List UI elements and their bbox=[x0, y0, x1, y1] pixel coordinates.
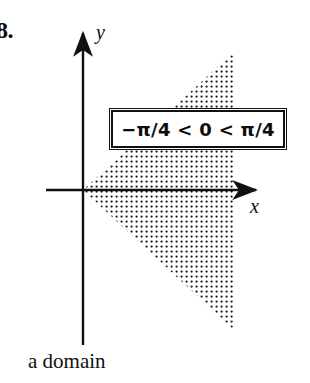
domain-figure bbox=[0, 0, 310, 383]
y-axis-label: y bbox=[96, 22, 105, 42]
x-axis-label: x bbox=[250, 196, 259, 216]
figure-caption: a domain bbox=[28, 351, 106, 372]
inequality-annotation-text: −π/4 < 0 < π/4 bbox=[121, 119, 275, 140]
problem-number: 8. bbox=[0, 18, 13, 42]
inequality-annotation-box: −π/4 < 0 < π/4 bbox=[111, 110, 285, 148]
